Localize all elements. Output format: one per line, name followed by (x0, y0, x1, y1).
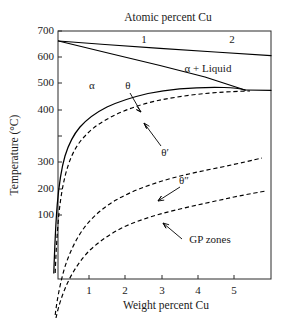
x-tick-label-2: 2 (122, 284, 128, 296)
x-axis-ticks (89, 275, 234, 279)
y-tick-label-300: 300 (38, 155, 55, 167)
x-tick-label-4: 4 (195, 284, 201, 296)
theta-double-prime-leader-line (158, 187, 180, 201)
y-tick-label-100: 100 (38, 208, 55, 220)
x-axis-title: Weight percent Cu (123, 299, 209, 312)
label-gp-zones: GP zones (189, 233, 230, 245)
top-axis-title: Atomic percent Cu (124, 11, 212, 24)
x-tick-label-3: 3 (159, 284, 165, 296)
label-alpha-plus-liquid-region: α + Liquid (185, 62, 232, 74)
label-theta-double-prime: θ″ (179, 174, 189, 186)
phase-diagram-canvas: 700 600 500 400 300 200 100 1 2 3 4 5 1 … (0, 0, 283, 322)
label-alpha-region: α (89, 79, 95, 91)
phase-diagram-figure: 700 600 500 400 300 200 100 1 2 3 4 5 1 … (0, 0, 283, 322)
theta-prime-arrowhead (144, 123, 149, 129)
alpha-solvus-theta-curve (54, 87, 245, 273)
y-tick-label-700: 700 (38, 24, 55, 36)
gp-zones-leader-line (163, 223, 182, 239)
x-tick-label-1: 1 (86, 284, 92, 296)
y-axis-title: Temperature (°C) (8, 114, 21, 195)
label-theta: θ (125, 79, 130, 91)
y-tick-label-200: 200 (38, 182, 55, 194)
top-tick-label-1: 1 (141, 33, 147, 45)
theta-prime-solvus-curve (55, 91, 250, 273)
x-tick-label-5: 5 (231, 284, 237, 296)
label-theta-prime: θ′ (161, 146, 169, 158)
y-tick-label-600: 600 (38, 50, 55, 62)
theta-prime-leader-line (144, 123, 161, 146)
y-tick-label-500: 500 (38, 76, 55, 88)
y-tick-label-400: 400 (38, 103, 55, 115)
top-tick-label-2: 2 (229, 33, 235, 45)
